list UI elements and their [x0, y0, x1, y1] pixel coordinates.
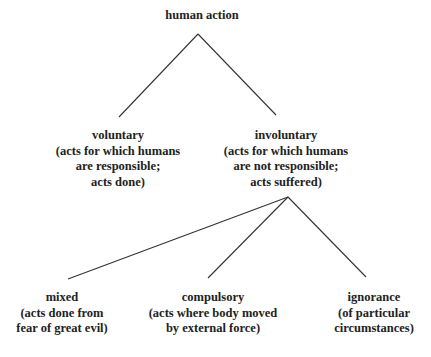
- edge-involuntary-ignorance: [288, 197, 366, 277]
- node-desc-line: by external force): [149, 321, 278, 337]
- node-desc-line: fear of great evil): [16, 321, 108, 337]
- node-desc-line: are not responsible;: [224, 159, 348, 175]
- node-desc-line: (of particular: [334, 306, 414, 322]
- edge-involuntary-mixed: [68, 197, 288, 279]
- node-label: ignorance: [334, 290, 414, 306]
- node-label: mixed: [16, 290, 108, 306]
- edge-root-involuntary: [198, 34, 276, 115]
- node-label: involuntary: [224, 128, 348, 144]
- node-desc-line: (acts for which humans: [56, 144, 180, 160]
- node-label: human action: [165, 8, 238, 24]
- node-voluntary: voluntary (acts for which humans are res…: [56, 128, 180, 190]
- node-desc-line: acts done): [56, 175, 180, 191]
- edge-involuntary-compulsory: [208, 197, 288, 278]
- node-desc-line: circumstances): [334, 321, 414, 337]
- edge-root-voluntary: [119, 34, 198, 117]
- node-label: voluntary: [56, 128, 180, 144]
- node-desc-line: (acts done from: [16, 306, 108, 322]
- node-human-action: human action: [165, 8, 238, 24]
- node-compulsory: compulsory (acts where body moved by ext…: [149, 290, 278, 337]
- node-desc-line: acts suffered): [224, 175, 348, 191]
- node-involuntary: involuntary (acts for which humans are n…: [224, 128, 348, 190]
- node-label: compulsory: [149, 290, 278, 306]
- node-desc-line: (acts for which humans: [224, 144, 348, 160]
- node-mixed: mixed (acts done from fear of great evil…: [16, 290, 108, 337]
- node-desc-line: (acts where body moved: [149, 306, 278, 322]
- node-ignorance: ignorance (of particular circumstances): [334, 290, 414, 337]
- node-desc-line: are responsible;: [56, 159, 180, 175]
